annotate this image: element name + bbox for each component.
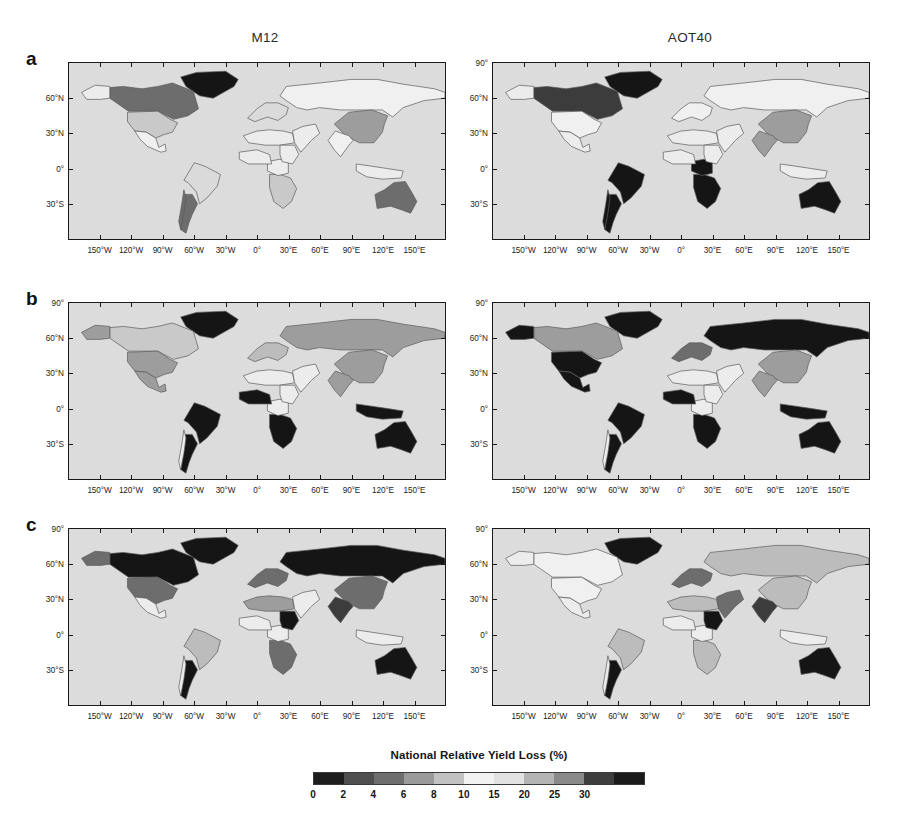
x-tick-mark [776,528,777,533]
colorbar-segment [314,773,344,784]
y-tick-mark [68,204,73,205]
caption-strip [0,814,922,828]
x-tick-mark [415,235,416,240]
x-tick-mark [555,302,556,307]
y-axis-top-label: 90° [460,299,488,308]
x-tick-mark [131,528,132,533]
x-axis-label: 30°E [280,486,297,495]
y-axis-label: 30°N [34,595,64,604]
y-tick-mark [492,409,497,410]
x-axis-label: 90°E [767,712,784,721]
y-axis-label: 30°N [458,595,488,604]
x-tick-mark [650,528,651,533]
x-axis-label: 30°W [640,246,660,255]
y-tick-mark [865,98,870,99]
x-tick-mark [524,62,525,67]
colorbar-segment [494,773,524,784]
x-axis-label: 150°E [828,486,850,495]
x-tick-mark [131,62,132,67]
x-axis-label: 120°W [543,246,567,255]
map-plot-area [492,528,870,706]
x-tick-mark [383,235,384,240]
x-axis-label: 150°W [87,712,111,721]
x-tick-mark [226,475,227,480]
map-panel-c-m12 [68,528,446,706]
x-axis-label: 90°E [343,486,360,495]
x-tick-mark [839,235,840,240]
x-tick-mark [650,475,651,480]
y-tick-mark [441,444,446,445]
x-tick-mark [681,701,682,706]
x-tick-mark [839,701,840,706]
colorbar-gradient [313,772,645,785]
x-tick-mark [100,302,101,307]
x-tick-mark [257,701,258,706]
x-axis-label: 150°E [828,712,850,721]
x-tick-mark [555,62,556,67]
colorbar-tick-label: 2 [340,789,346,800]
x-tick-mark [807,475,808,480]
x-tick-mark [744,475,745,480]
x-tick-mark [100,235,101,240]
x-axis-label: 90°E [767,246,784,255]
x-tick-mark [194,62,195,67]
x-tick-mark [289,62,290,67]
x-axis-label: 120°W [543,486,567,495]
y-tick-mark [441,635,446,636]
x-tick-mark [163,701,164,706]
colorbar-tick-label: 4 [371,789,377,800]
x-tick-mark [320,235,321,240]
x-tick-mark [352,528,353,533]
x-axis-label: 90°W [153,712,173,721]
x-axis-label: 150°W [87,486,111,495]
colorbar-title: National Relative Yield Loss (%) [279,749,679,761]
panel-letter-a: a [26,48,37,70]
x-axis-label: 30°W [216,486,236,495]
x-tick-mark [163,302,164,307]
x-axis-label: 90°W [577,486,597,495]
y-axis-label: 30°S [458,200,488,209]
y-tick-mark [492,169,497,170]
x-tick-mark [681,235,682,240]
x-tick-mark [320,701,321,706]
x-axis-label: 60°W [608,712,628,721]
y-tick-mark [68,670,73,671]
y-tick-mark [865,635,870,636]
x-axis-label: 120°E [796,246,818,255]
x-tick-mark [194,701,195,706]
x-tick-mark [713,528,714,533]
map-plot-area [68,62,446,240]
y-tick-mark [865,373,870,374]
x-tick-mark [383,701,384,706]
x-tick-mark [289,528,290,533]
x-axis-label: 0° [677,246,685,255]
x-axis-label: 0° [677,486,685,495]
x-tick-mark [163,475,164,480]
y-axis-label: 30°S [34,200,64,209]
colorbar-segment [374,773,404,784]
x-tick-mark [650,235,651,240]
x-tick-mark [289,235,290,240]
y-axis-label: 30°S [458,440,488,449]
x-tick-mark [100,475,101,480]
colorbar-segment [344,773,374,784]
x-tick-mark [839,302,840,307]
x-tick-mark [163,528,164,533]
x-tick-mark [352,302,353,307]
y-tick-mark [865,169,870,170]
y-tick-mark [441,169,446,170]
x-tick-mark [352,475,353,480]
x-axis-label: 30°W [640,712,660,721]
x-axis-label: 120°E [372,246,394,255]
x-tick-mark [289,302,290,307]
x-tick-mark [650,302,651,307]
x-tick-mark [744,62,745,67]
y-tick-mark [441,204,446,205]
x-tick-mark [587,235,588,240]
x-tick-mark [524,528,525,533]
x-tick-mark [776,62,777,67]
x-axis-label: 30°E [280,712,297,721]
x-axis-label: 120°E [372,486,394,495]
map-plot-area [68,302,446,480]
y-axis-label: 60°N [458,333,488,342]
